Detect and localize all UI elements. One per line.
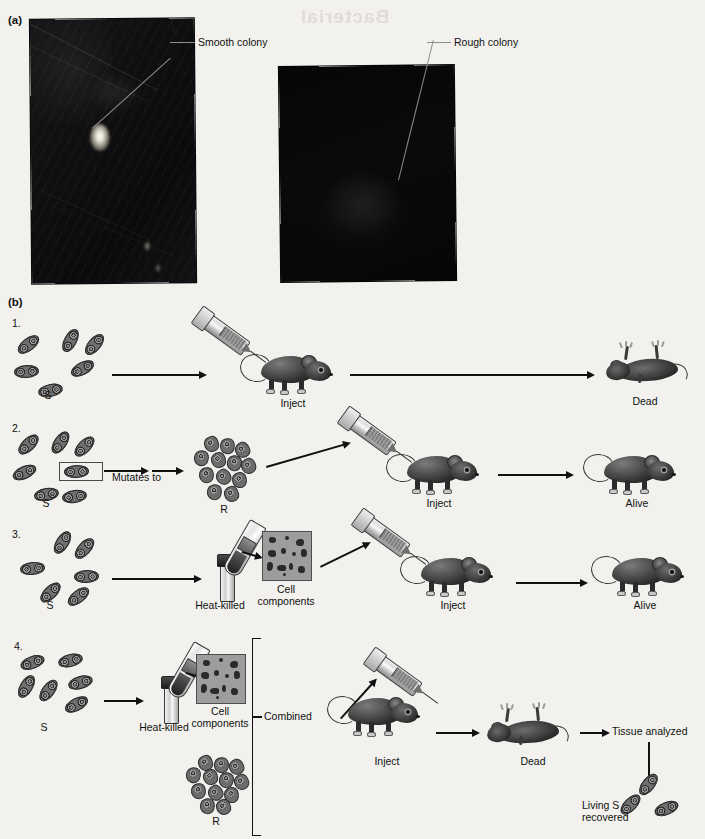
mouse-row2-alive bbox=[592, 448, 684, 496]
cell-components-box-3 bbox=[262, 531, 312, 581]
combined-label: Combined bbox=[264, 711, 334, 723]
s-cells-group-1 bbox=[12, 332, 112, 404]
mouse-row1-injected bbox=[249, 348, 341, 396]
smooth-colony-label: Smooth colony bbox=[198, 36, 267, 48]
inject-label-1: Inject bbox=[268, 398, 318, 410]
plate-artifact-1 bbox=[144, 241, 151, 252]
mouse-row2-injected bbox=[395, 448, 487, 496]
outcome-label-3: Alive bbox=[620, 600, 670, 612]
step-number-2: 2. bbox=[12, 422, 21, 434]
rough-colony-leader-horizontal bbox=[427, 42, 451, 43]
inject-label-4: Inject bbox=[362, 756, 412, 768]
s-cells-group-3 bbox=[14, 536, 119, 606]
s-label-1: S bbox=[36, 390, 60, 402]
combined-bracket-nub bbox=[253, 716, 262, 718]
arrow-row3-to-syringe bbox=[320, 541, 370, 566]
ghost-bleed-text: Bacterial bbox=[300, 6, 389, 28]
outcome-label-4: Dead bbox=[508, 756, 558, 768]
cell-components-label-3: Cell components bbox=[250, 584, 322, 607]
inject-label-3: Inject bbox=[428, 600, 478, 612]
step-number-4: 4. bbox=[14, 640, 23, 652]
s-cells-group-4 bbox=[14, 654, 119, 726]
rough-colony-spot bbox=[326, 171, 401, 234]
outcome-label-1: Dead bbox=[620, 396, 670, 408]
mouse-row3-injected bbox=[409, 550, 501, 598]
r-cells-group-4 bbox=[182, 755, 254, 815]
s-label-4: S bbox=[32, 722, 56, 734]
s-label-2: S bbox=[34, 498, 58, 510]
rough-colony-label: Rough colony bbox=[454, 36, 518, 48]
r-cells-group-2 bbox=[190, 436, 260, 502]
smooth-colony-plate bbox=[30, 18, 196, 283]
mouse-row4-injected bbox=[336, 690, 428, 738]
s-label-3: S bbox=[38, 600, 62, 612]
r-label-2: R bbox=[212, 504, 236, 516]
mutates-to-label: Mutates to bbox=[112, 472, 186, 484]
heat-killed-label-3: Heat-killed bbox=[186, 600, 254, 612]
cell-components-box-4 bbox=[196, 654, 246, 704]
living-s-recovered-label: Living S recovered bbox=[582, 800, 644, 823]
r-label-4: R bbox=[204, 816, 228, 828]
mouse-row4-dead bbox=[485, 706, 573, 752]
panel-label-a: (a) bbox=[8, 14, 22, 26]
outcome-label-2: Alive bbox=[612, 498, 662, 510]
tissue-analyzed-label: Tissue analyzed bbox=[612, 726, 704, 738]
plate-artifact-2 bbox=[155, 264, 161, 273]
cell-components-label-4: Cell components bbox=[184, 706, 256, 729]
combined-bracket bbox=[252, 638, 261, 836]
selected-cell-box bbox=[59, 462, 103, 481]
figure-root: Bacterial (a) Smooth colony Rough colony… bbox=[0, 0, 705, 839]
smooth-colony-leader-horizontal bbox=[170, 42, 195, 43]
mouse-row3-alive bbox=[600, 550, 692, 598]
rough-colony-plate bbox=[279, 65, 456, 282]
mouse-row1-dead bbox=[604, 344, 692, 390]
arrow-row2-to-syringe bbox=[266, 442, 351, 466]
panel-label-b: (b) bbox=[8, 296, 23, 308]
inject-label-2: Inject bbox=[414, 498, 464, 510]
step-number-1: 1. bbox=[12, 317, 21, 329]
